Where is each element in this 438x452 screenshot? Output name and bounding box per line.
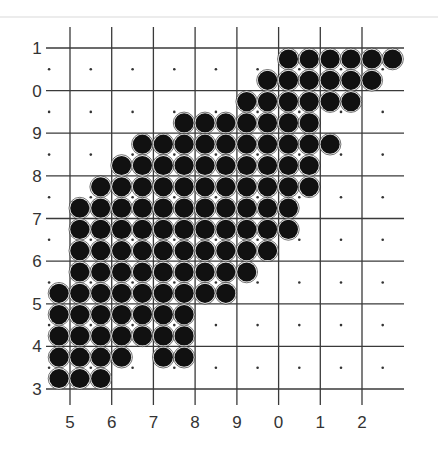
grid-dot (215, 366, 218, 369)
filled-circle (237, 220, 256, 239)
filled-circle (237, 177, 256, 196)
filled-circle (195, 284, 214, 303)
filled-circle (195, 241, 214, 260)
filled-circle (341, 49, 360, 68)
x-axis-label: 2 (357, 413, 366, 432)
filled-circle (237, 113, 256, 132)
filled-circle (258, 135, 277, 154)
filled-circle (175, 220, 194, 239)
filled-circle (341, 92, 360, 111)
filled-circle (300, 113, 319, 132)
grid-dot (48, 153, 51, 156)
grid-dot (215, 324, 218, 327)
filled-circle (49, 284, 68, 303)
filled-circle (279, 199, 298, 218)
grid-dot (90, 153, 93, 156)
filled-circle (258, 71, 277, 90)
filled-circle (49, 348, 68, 367)
filled-circle (383, 49, 402, 68)
filled-circle (133, 177, 152, 196)
filled-circle (91, 348, 110, 367)
grid-dot (381, 111, 384, 114)
filled-circle (279, 220, 298, 239)
filled-circle (112, 262, 131, 281)
filled-circle (279, 71, 298, 90)
filled-circle (133, 326, 152, 345)
filled-circle (321, 49, 340, 68)
filled-circle (154, 284, 173, 303)
filled-circle (154, 135, 173, 154)
filled-circle (258, 199, 277, 218)
filled-circle (175, 113, 194, 132)
grid-dot (48, 239, 51, 242)
grid-dot (48, 324, 51, 327)
filled-circle (216, 135, 235, 154)
grid-dot (298, 111, 301, 114)
y-axis-label: 5 (32, 295, 41, 314)
grid-dot (298, 153, 301, 156)
grid-dot (131, 153, 134, 156)
filled-circle (175, 284, 194, 303)
filled-circle (237, 262, 256, 281)
x-axis-label: 1 (316, 413, 325, 432)
filled-circle (175, 262, 194, 281)
grid-dot (340, 239, 343, 242)
filled-circle (133, 241, 152, 260)
grid-dot (131, 239, 134, 242)
grid-dot (90, 196, 93, 199)
filled-circle (216, 262, 235, 281)
grid-dot (381, 239, 384, 242)
filled-circle (70, 326, 89, 345)
grid-dot (340, 68, 343, 71)
filled-circle (154, 348, 173, 367)
filled-circle (216, 113, 235, 132)
grid-dot (131, 68, 134, 71)
grid-dot (48, 366, 51, 369)
filled-circle (91, 220, 110, 239)
grid-dot (298, 239, 301, 242)
grid-dot (131, 366, 134, 369)
filled-circle (216, 199, 235, 218)
filled-circle (237, 92, 256, 111)
grid-dot (340, 324, 343, 327)
filled-circle (70, 262, 89, 281)
filled-circle (70, 199, 89, 218)
grid-dot (340, 281, 343, 284)
filled-circle (175, 156, 194, 175)
grid-dot (131, 324, 134, 327)
filled-circle (49, 326, 68, 345)
filled-circle (91, 305, 110, 324)
filled-circle (154, 241, 173, 260)
grid-dot (256, 366, 259, 369)
grid-dot (131, 281, 134, 284)
grid-dot (48, 281, 51, 284)
filled-circle (258, 220, 277, 239)
filled-circle (195, 199, 214, 218)
y-axis-label: 6 (32, 252, 41, 271)
filled-circle (258, 156, 277, 175)
filled-circle (362, 71, 381, 90)
grid-dot (381, 68, 384, 71)
filled-circle (112, 305, 131, 324)
filled-circle (300, 135, 319, 154)
grid-dot (215, 281, 218, 284)
filled-circle (70, 220, 89, 239)
grid-dot (298, 281, 301, 284)
filled-circle (112, 220, 131, 239)
filled-circle (70, 348, 89, 367)
y-axis-label: 3 (32, 380, 41, 399)
grid-dot (215, 111, 218, 114)
grid-dot (48, 111, 51, 114)
x-axis-label: 8 (190, 413, 199, 432)
filled-circle (258, 113, 277, 132)
filled-circle (133, 220, 152, 239)
filled-circle (112, 199, 131, 218)
grid-dot (173, 196, 176, 199)
x-axis-labels: 56789012 (65, 413, 366, 432)
grid-dot (340, 366, 343, 369)
filled-circle (279, 177, 298, 196)
filled-circle (70, 241, 89, 260)
grid-dot (256, 153, 259, 156)
grid-dot (215, 153, 218, 156)
filled-circle (175, 348, 194, 367)
